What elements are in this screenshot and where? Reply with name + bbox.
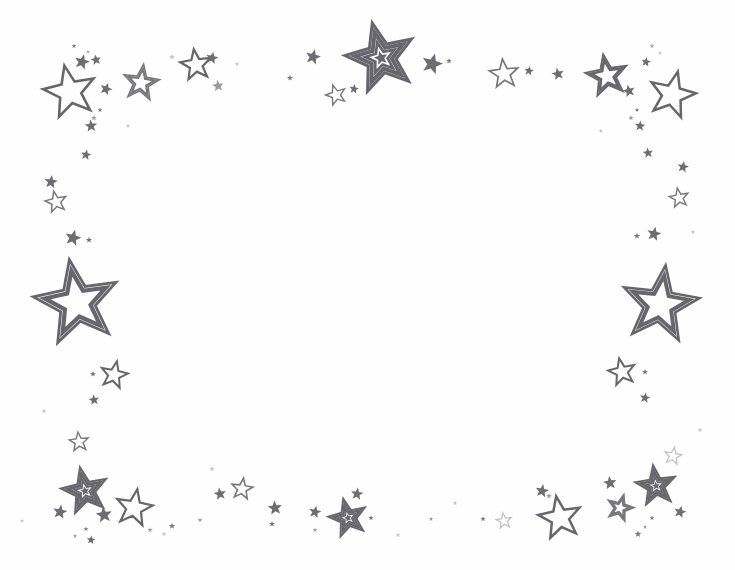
empty-center-region [150,160,585,410]
star-border-artwork [0,0,735,570]
